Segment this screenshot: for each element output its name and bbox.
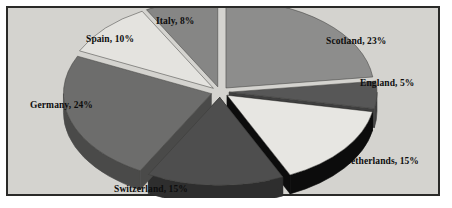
slice-label-england: England, 5% (360, 78, 414, 88)
slice-label-netherlands: Netherlands, 15% (344, 156, 419, 166)
slice-label-germany: Germany, 24% (30, 100, 93, 110)
chart-frame: Italy, 8% Spain, 10% Scotland, 23% Engla… (6, 6, 440, 196)
slice-label-spain: Spain, 10% (86, 34, 134, 44)
slice-label-italy: Italy, 8% (156, 16, 194, 26)
slice-label-scotland: Scotland, 23% (326, 36, 386, 46)
pie-chart-screenshot: Italy, 8% Spain, 10% Scotland, 23% Engla… (0, 0, 452, 208)
slice-label-switzerland: Switzerland, 15% (114, 184, 188, 194)
